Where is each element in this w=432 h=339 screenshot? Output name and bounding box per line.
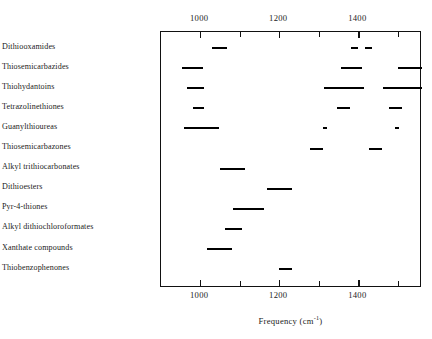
- frequency-band-bar: [323, 127, 327, 129]
- frequency-band-bar: [351, 47, 358, 49]
- minor-tick-bottom: [240, 281, 241, 286]
- minor-tick-top: [240, 32, 241, 37]
- x-axis-title: Frequency (cm-1): [160, 316, 421, 326]
- frequency-band-bar: [267, 188, 292, 190]
- frequency-correlation-chart: DithiooxamidesThiosemicarbazidesThiohyda…: [0, 0, 432, 339]
- frequency-band-bar: [207, 248, 232, 250]
- minor-tick-top: [398, 32, 399, 37]
- category-label: Thiohydantoins: [2, 82, 150, 91]
- major-tick-top: [279, 32, 280, 38]
- category-label: Thiosemicarbazones: [2, 142, 150, 151]
- major-tick-top: [358, 32, 359, 38]
- frequency-band-bar: [337, 107, 350, 109]
- plot-area: [160, 31, 421, 287]
- category-label: Xanthate compounds: [2, 243, 150, 252]
- frequency-band-bar: [187, 87, 204, 89]
- category-label: Thiobenzophenones: [2, 263, 150, 272]
- category-label: Dithiooxamides: [2, 42, 150, 51]
- frequency-band-bar: [324, 87, 364, 89]
- category-label: Pyr-4-thiones: [2, 202, 150, 211]
- category-label: Thiosemicarbazides: [2, 62, 150, 71]
- category-label-column: DithiooxamidesThiosemicarbazidesThiohyda…: [0, 31, 156, 287]
- tick-label-top: 1200: [269, 13, 287, 23]
- frequency-band-bar: [369, 148, 382, 150]
- frequency-band-bar: [383, 87, 422, 89]
- frequency-band-bar: [212, 47, 227, 49]
- top-axis-tick-labels: 100012001400: [160, 13, 421, 27]
- category-label: Dithioesters: [2, 182, 150, 191]
- superscript-minus-one: -1: [314, 314, 320, 321]
- category-label: Tetrazolinethiones: [2, 102, 150, 111]
- frequency-band-bar: [184, 127, 219, 129]
- frequency-band-bar: [220, 168, 245, 170]
- frequency-band-bar: [233, 208, 264, 210]
- minor-tick-bottom: [319, 281, 320, 286]
- frequency-band-bar: [193, 107, 204, 109]
- category-label: Alkyl dithiochloroformates: [2, 222, 150, 231]
- tick-label-bottom: 1200: [269, 290, 287, 300]
- frequency-band-bar: [341, 67, 362, 69]
- frequency-band-bar: [389, 107, 402, 109]
- frequency-band-bar: [365, 47, 372, 49]
- category-label: Alkyl trithiocarbonates: [2, 162, 150, 171]
- major-tick-bottom: [358, 280, 359, 286]
- plot-inner: [161, 32, 420, 286]
- major-tick-bottom: [200, 280, 201, 286]
- frequency-band-bar: [279, 268, 292, 270]
- tick-label-bottom: 1000: [190, 290, 208, 300]
- minor-tick-bottom: [398, 281, 399, 286]
- tick-label-top: 1000: [190, 13, 208, 23]
- category-label: Guanylthioureas: [2, 122, 150, 131]
- tick-label-top: 1400: [348, 13, 366, 23]
- major-tick-top: [200, 32, 201, 38]
- minor-tick-top: [319, 32, 320, 37]
- frequency-band-bar: [395, 127, 399, 129]
- major-tick-bottom: [279, 280, 280, 286]
- frequency-band-bar: [182, 67, 203, 69]
- frequency-band-bar: [398, 67, 422, 69]
- tick-label-bottom: 1400: [348, 290, 366, 300]
- frequency-band-bar: [225, 228, 242, 230]
- frequency-band-bar: [310, 148, 323, 150]
- bottom-axis-tick-labels: 100012001400: [160, 290, 421, 304]
